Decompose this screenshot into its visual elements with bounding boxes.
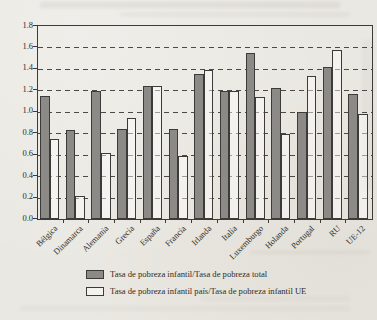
bar-white-ue-12 <box>358 114 368 219</box>
x-tick-label: Italia <box>220 224 239 243</box>
bar-white-portugal <box>307 76 317 219</box>
x-tick <box>243 219 244 223</box>
ghost-text-artifact <box>40 2 340 8</box>
bar-white-francia <box>178 156 188 219</box>
y-tick-label: 0.8 <box>11 128 33 137</box>
bar-gray-italia <box>220 91 230 219</box>
bar-gray-b-lgica <box>40 96 50 219</box>
x-tick-label: Portugal <box>289 224 316 251</box>
bar-white-ru <box>332 50 342 219</box>
bar-white-dinamarca <box>75 196 85 219</box>
y-tick <box>33 132 37 133</box>
bar-gray-espa-a <box>143 86 153 219</box>
x-tick-label: Irlanda <box>190 224 213 247</box>
ghost-text-artifact <box>250 250 370 255</box>
bar-white-alemania <box>101 153 111 219</box>
legend-label: Tasa de pobreza infantil país/Tasa de po… <box>110 286 306 296</box>
gray-swatch-icon <box>86 270 104 279</box>
y-tick-label: 0.4 <box>11 171 33 180</box>
ghost-text-artifact <box>200 296 350 301</box>
x-tick-label: España <box>138 224 162 248</box>
y-tick <box>33 68 37 69</box>
y-tick-label: 1.2 <box>11 85 33 94</box>
bar-gray-francia <box>169 129 179 219</box>
y-tick-label: 0.0 <box>11 214 33 223</box>
bar-white-grecia <box>127 118 137 219</box>
bar-gray-dinamarca <box>66 130 76 219</box>
y-tick <box>33 175 37 176</box>
x-tick-label: Alemania <box>81 224 111 254</box>
y-tick <box>33 46 37 47</box>
y-tick <box>33 89 37 90</box>
bar-gray-holanda <box>271 88 281 219</box>
y-tick <box>33 218 37 219</box>
bar-gray-luxemburgo <box>246 53 256 219</box>
bar-gray-alemania <box>91 91 101 219</box>
x-tick <box>140 219 141 223</box>
bar-gray-grecia <box>117 129 127 219</box>
x-tick-label: Holanda <box>264 224 291 251</box>
gridline <box>38 47 372 48</box>
x-tick <box>294 219 295 223</box>
x-tick <box>217 219 218 223</box>
y-tick-label: 1.8 <box>11 21 33 30</box>
white-swatch-icon <box>86 287 104 296</box>
y-tick-label: 0.6 <box>11 149 33 158</box>
legend-item-gray: Tasa de pobreza infantil/Tasa de pobreza… <box>86 269 306 279</box>
bar-gray-ru <box>323 67 333 219</box>
x-tick-label: UE-12 <box>345 224 367 246</box>
x-tick <box>268 219 269 223</box>
bar-gray-portugal <box>297 112 307 219</box>
bar-gray-ue-12 <box>348 94 358 219</box>
plot-area <box>37 25 373 220</box>
legend-label: Tasa de pobreza infantil/Tasa de pobreza… <box>110 269 267 279</box>
x-tick <box>345 219 346 223</box>
x-tick-label: Grecia <box>114 224 136 246</box>
bar-white-irlanda <box>204 70 214 219</box>
y-tick <box>33 25 37 26</box>
ghost-text-artifact <box>120 12 350 17</box>
y-tick-label: 0.2 <box>11 192 33 201</box>
x-tick <box>88 219 89 223</box>
y-tick-label: 1.6 <box>11 42 33 51</box>
x-tick <box>114 219 115 223</box>
x-tick <box>63 219 64 223</box>
x-tick <box>320 219 321 223</box>
x-tick-label: Francia <box>163 224 187 248</box>
y-tick-label: 1.4 <box>11 63 33 72</box>
x-tick <box>165 219 166 223</box>
bar-white-italia <box>229 91 239 219</box>
scanned-book-page: 1.81.61.41.21.00.80.60.40.20.0 BélgicaDi… <box>0 0 377 320</box>
y-tick <box>33 154 37 155</box>
bar-white-luxemburgo <box>255 97 265 219</box>
legend-item-white: Tasa de pobreza infantil país/Tasa de po… <box>86 286 306 296</box>
bar-white-holanda <box>281 134 291 219</box>
bar-gray-irlanda <box>194 74 204 219</box>
x-tick <box>191 219 192 223</box>
bar-white-espa-a <box>152 86 162 219</box>
y-tick-label: 1.0 <box>11 106 33 115</box>
bar-white-b-lgica <box>50 139 60 219</box>
y-tick <box>33 111 37 112</box>
x-tick-label: RU <box>327 224 342 239</box>
ghost-text-artifact <box>20 306 350 311</box>
y-tick <box>33 197 37 198</box>
legend: Tasa de pobreza infantil/Tasa de pobreza… <box>86 269 306 296</box>
